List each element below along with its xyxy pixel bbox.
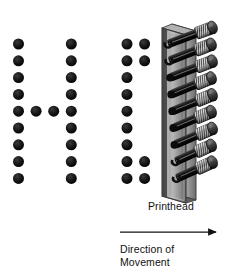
matrix-dot <box>48 106 59 117</box>
diagram-svg <box>0 0 245 275</box>
matrix-dot <box>66 123 77 134</box>
direction-label-line1: Direction of <box>120 243 174 255</box>
matrix-dot <box>13 139 24 150</box>
matrix-dot <box>13 123 24 134</box>
printed-character-h <box>13 39 77 184</box>
solenoid-coil-1 <box>193 20 219 40</box>
figure-canvas: Printhead Direction ofMovement <box>0 0 245 275</box>
matrix-dot <box>66 39 77 50</box>
matrix-dot <box>122 173 133 184</box>
matrix-dot <box>139 55 150 66</box>
matrix-dot <box>122 106 133 117</box>
direction-of-movement-label: Direction ofMovement <box>120 243 174 268</box>
matrix-dot <box>13 39 24 50</box>
matrix-dot <box>122 55 133 66</box>
solenoid-coil-7 <box>193 121 219 142</box>
matrix-dot <box>66 106 77 117</box>
matrix-dot <box>31 106 42 117</box>
pin-hole-3-retracted <box>166 74 174 82</box>
matrix-dot <box>13 173 24 184</box>
direction-label-line2: Movement <box>120 256 170 268</box>
printed-character-i <box>122 39 151 184</box>
solenoid-coil-3 <box>193 53 219 73</box>
solenoid-coil-9 <box>193 154 219 175</box>
matrix-dot <box>66 139 77 150</box>
matrix-dot <box>13 72 24 83</box>
matrix-dot <box>13 89 24 100</box>
matrix-dot <box>122 139 133 150</box>
matrix-dot <box>13 55 24 66</box>
matrix-dot <box>122 156 133 167</box>
matrix-dot <box>122 39 133 50</box>
matrix-dot <box>139 173 150 184</box>
matrix-dot <box>66 55 77 66</box>
matrix-dot <box>139 156 150 167</box>
solenoid-coil-5 <box>193 87 219 108</box>
printhead-label: Printhead <box>148 200 194 212</box>
pin-hole-6-retracted <box>169 124 177 132</box>
matrix-dot <box>66 89 77 100</box>
pin-hole-5-retracted <box>168 107 176 115</box>
matrix-dot <box>122 72 133 83</box>
matrix-dot <box>139 39 150 50</box>
matrix-dot <box>122 89 133 100</box>
matrix-dot <box>66 156 77 167</box>
matrix-dot <box>122 123 133 134</box>
matrix-dot <box>66 173 77 184</box>
matrix-dot <box>13 156 24 167</box>
pin-hole-4-retracted <box>167 91 175 99</box>
matrix-dot <box>66 72 77 83</box>
matrix-dot <box>13 106 24 117</box>
pin-hole-7-retracted <box>170 141 178 149</box>
